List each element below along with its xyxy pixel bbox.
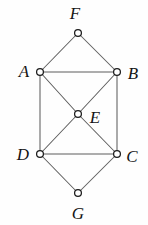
graph-vertex-e[interactable] — [75, 111, 82, 118]
graph-vertex-f[interactable] — [75, 30, 82, 37]
graph-edge-d-g — [40, 154, 78, 193]
vertex-layer — [37, 30, 121, 197]
graph-edge-f-b — [78, 33, 117, 72]
graph-canvas — [0, 0, 148, 225]
graph-diagram: FABEDCG — [0, 0, 148, 225]
graph-vertex-c[interactable] — [114, 151, 121, 158]
vertex-label-f: F — [70, 5, 81, 22]
vertex-label-d: D — [17, 146, 29, 163]
vertex-label-g: G — [72, 205, 84, 222]
vertex-label-b: B — [128, 65, 139, 82]
graph-edge-d-e — [40, 114, 78, 154]
vertex-label-e: E — [90, 109, 101, 126]
graph-edge-f-a — [40, 33, 78, 72]
graph-edge-a-e — [40, 72, 78, 114]
graph-vertex-g[interactable] — [75, 190, 82, 197]
graph-vertex-a[interactable] — [37, 69, 44, 76]
graph-edge-c-g — [78, 154, 117, 193]
vertex-label-a: A — [19, 63, 30, 80]
graph-vertex-d[interactable] — [37, 151, 44, 158]
graph-vertex-b[interactable] — [114, 69, 121, 76]
vertex-label-c: C — [126, 148, 138, 165]
